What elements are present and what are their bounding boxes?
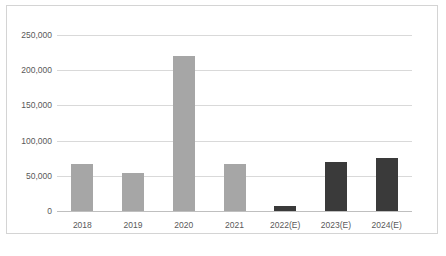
bar-chart-figure: 050,000100,000150,000200,000250,000 2018…: [0, 0, 446, 256]
gridline: [57, 211, 412, 212]
bar-2019[interactable]: [122, 173, 144, 211]
bar-2022e[interactable]: [274, 206, 296, 211]
x-tick-slot: 2019: [108, 214, 159, 232]
bar-2018[interactable]: [71, 164, 93, 211]
x-tick-label: 2018: [73, 220, 92, 230]
x-tick-slot: 2022(E): [260, 214, 311, 232]
bar-2023e[interactable]: [325, 162, 347, 211]
bar-slot: [57, 35, 108, 211]
y-tick-label: 100,000: [6, 136, 52, 145]
bar-2024e[interactable]: [376, 158, 398, 211]
bar-slot: [311, 35, 362, 211]
bar-slot: [209, 35, 260, 211]
y-tick-label: 250,000: [6, 31, 52, 40]
bar-slot: [158, 35, 209, 211]
x-tick-slot: 2020: [158, 214, 209, 232]
x-tick-label: 2020: [174, 220, 193, 230]
y-tick-label: 50,000: [6, 172, 52, 181]
x-tick-slot: 2024(E): [361, 214, 412, 232]
x-axis: 20182019202020212022(E)2023(E)2024(E): [57, 214, 412, 232]
x-tick-label: 2022(E): [270, 220, 300, 230]
bar-slot: [108, 35, 159, 211]
bar-slot: [361, 35, 412, 211]
x-tick-label: 2024(E): [372, 220, 402, 230]
bar-2021[interactable]: [224, 164, 246, 211]
y-tick-label: 0: [6, 207, 52, 216]
x-tick-slot: 2021: [209, 214, 260, 232]
bars-container: [57, 35, 412, 211]
x-tick-label: 2023(E): [321, 220, 351, 230]
bar-slot: [260, 35, 311, 211]
x-tick-label: 2021: [225, 220, 244, 230]
y-tick-label: 200,000: [6, 66, 52, 75]
x-tick-slot: 2018: [57, 214, 108, 232]
x-tick-slot: 2023(E): [311, 214, 362, 232]
y-tick-label: 150,000: [6, 101, 52, 110]
y-axis: 050,000100,000150,000200,000250,000: [6, 35, 52, 211]
x-tick-label: 2019: [124, 220, 143, 230]
bar-2020[interactable]: [173, 56, 195, 211]
